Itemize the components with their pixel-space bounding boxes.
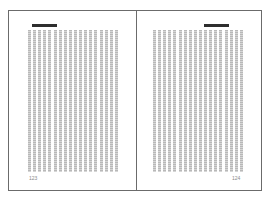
text-column — [153, 30, 156, 172]
text-column — [105, 30, 108, 172]
right-page-text-block — [153, 30, 243, 172]
text-column — [204, 30, 207, 172]
text-column — [158, 30, 161, 172]
text-column — [59, 30, 62, 172]
text-column — [219, 30, 222, 172]
text-column — [173, 30, 176, 172]
text-column — [209, 30, 212, 172]
text-column — [79, 30, 82, 172]
book-spread: 123 124 — [8, 10, 262, 191]
left-page-number: 123 — [29, 175, 37, 181]
text-column — [100, 30, 103, 172]
text-column — [69, 30, 72, 172]
text-column — [199, 30, 202, 172]
text-column — [189, 30, 192, 172]
text-column — [115, 30, 118, 172]
text-column — [225, 30, 228, 172]
text-column — [240, 30, 243, 172]
text-column — [214, 30, 217, 172]
text-column — [33, 30, 36, 172]
left-page-header-bar — [32, 24, 57, 27]
text-column — [84, 30, 87, 172]
text-column — [179, 30, 182, 172]
text-column — [110, 30, 113, 172]
text-column — [38, 30, 41, 172]
text-column — [54, 30, 57, 172]
text-column — [64, 30, 67, 172]
right-page-number: 124 — [232, 175, 240, 181]
text-column — [28, 30, 31, 172]
text-column — [168, 30, 171, 172]
text-column — [230, 30, 233, 172]
text-column — [163, 30, 166, 172]
left-page: 123 — [9, 11, 136, 190]
text-column — [43, 30, 46, 172]
text-column — [194, 30, 197, 172]
text-column — [74, 30, 77, 172]
text-column — [184, 30, 187, 172]
text-column — [94, 30, 97, 172]
text-column — [48, 30, 51, 172]
right-page-header-bar — [204, 24, 229, 27]
left-page-text-block — [28, 30, 118, 172]
text-column — [235, 30, 238, 172]
text-column — [89, 30, 92, 172]
right-page: 124 — [137, 11, 262, 190]
